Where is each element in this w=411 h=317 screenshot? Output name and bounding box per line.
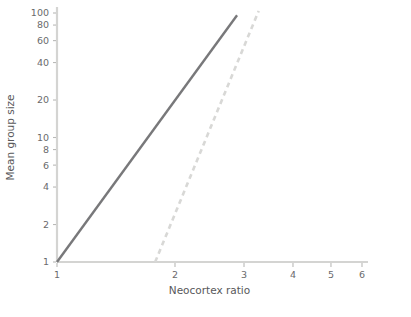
- x-tick-label: 6: [359, 269, 365, 280]
- y-tick-label: 10: [37, 132, 49, 143]
- y-tick-label: 80: [37, 19, 49, 30]
- x-tick-label: 4: [290, 269, 296, 280]
- x-tick-label: 2: [172, 269, 178, 280]
- y-axis-title: Mean group size: [4, 94, 16, 180]
- y-tick-label: 40: [37, 57, 49, 68]
- y-tick-label: 20: [37, 94, 49, 105]
- y-tick-label: 1: [43, 256, 49, 267]
- chart-figure: 124681020406080100123456Neocortex ratioM…: [0, 0, 411, 317]
- x-tick-label: 5: [328, 269, 334, 280]
- y-tick-label: 2: [43, 219, 49, 230]
- x-tick-label: 3: [241, 269, 247, 280]
- ape-regression-line: [155, 11, 259, 262]
- scatter-plot: 124681020406080100123456Neocortex ratioM…: [0, 0, 411, 317]
- y-tick-label: 4: [43, 181, 49, 192]
- x-axis-title: Neocortex ratio: [169, 284, 250, 296]
- monkey-regression-line: [57, 15, 237, 262]
- y-tick-label: 6: [43, 160, 49, 171]
- y-tick-label: 8: [43, 144, 49, 155]
- x-tick-label: 1: [54, 269, 60, 280]
- y-tick-label: 100: [31, 7, 49, 18]
- y-tick-label: 60: [37, 35, 49, 46]
